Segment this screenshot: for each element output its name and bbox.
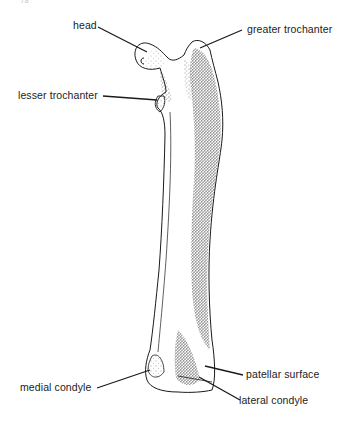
- label-head: head: [73, 19, 97, 31]
- label-medial-condyle: medial condyle: [20, 381, 91, 393]
- label-greater-trochanter: greater trochanter: [247, 23, 332, 35]
- label-lateral-condyle: lateral condyle: [239, 394, 308, 406]
- label-lesser-trochanter: lesser trochanter: [18, 89, 98, 101]
- femur-illustration: [0, 0, 351, 423]
- label-patellar-surface: patellar surface: [246, 368, 319, 380]
